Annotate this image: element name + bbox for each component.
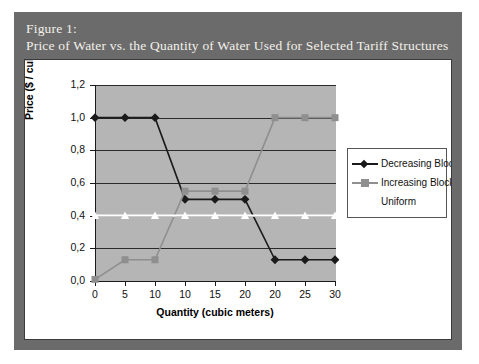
data-point-marker xyxy=(91,113,100,122)
legend-row: Decreasing Block xyxy=(352,154,442,173)
legend-marker-diamond-icon xyxy=(352,158,378,170)
figure-caption-line2: Price of Water vs. the Quantity of Water… xyxy=(26,37,454,54)
chart-panel: Price ($ / cubic meter) 0,00,20,40,60,81… xyxy=(24,59,452,340)
plot-wrapper: Price ($ / cubic meter) 0,00,20,40,60,81… xyxy=(25,60,451,339)
series-uniform xyxy=(91,211,339,219)
data-point-marker xyxy=(332,114,339,121)
x-axis-title: Quantity (cubic meters) xyxy=(95,306,335,318)
legend-marker-square-icon xyxy=(352,177,378,189)
data-point-marker xyxy=(122,256,129,263)
legend-row: Uniform xyxy=(352,192,442,211)
data-point-marker xyxy=(241,195,250,204)
data-point-marker xyxy=(272,114,279,121)
legend-marker-triangle-icon xyxy=(352,196,378,208)
data-point-marker xyxy=(271,255,280,264)
legend-row: Increasing Block xyxy=(352,173,442,192)
chart-legend: Decreasing BlockIncreasing BlockUniform xyxy=(347,148,447,218)
data-point-marker xyxy=(242,188,249,195)
data-point-marker xyxy=(301,255,310,264)
figure-frame: Figure 1: Price of Water vs. the Quantit… xyxy=(14,12,462,350)
data-point-marker xyxy=(182,188,189,195)
figure-caption: Figure 1: Price of Water vs. the Quantit… xyxy=(26,20,454,54)
data-point-marker xyxy=(302,114,309,121)
data-point-marker xyxy=(152,256,159,263)
data-point-marker xyxy=(92,276,99,283)
data-point-marker xyxy=(331,255,340,264)
data-point-marker xyxy=(212,188,219,195)
data-point-marker xyxy=(121,113,130,122)
data-point-marker xyxy=(211,195,220,204)
legend-label: Uniform xyxy=(378,196,416,207)
data-point-marker xyxy=(151,113,160,122)
figure-caption-line1: Figure 1: xyxy=(26,20,454,37)
legend-label: Increasing Block xyxy=(378,177,452,188)
legend-label: Decreasing Block xyxy=(378,158,452,169)
